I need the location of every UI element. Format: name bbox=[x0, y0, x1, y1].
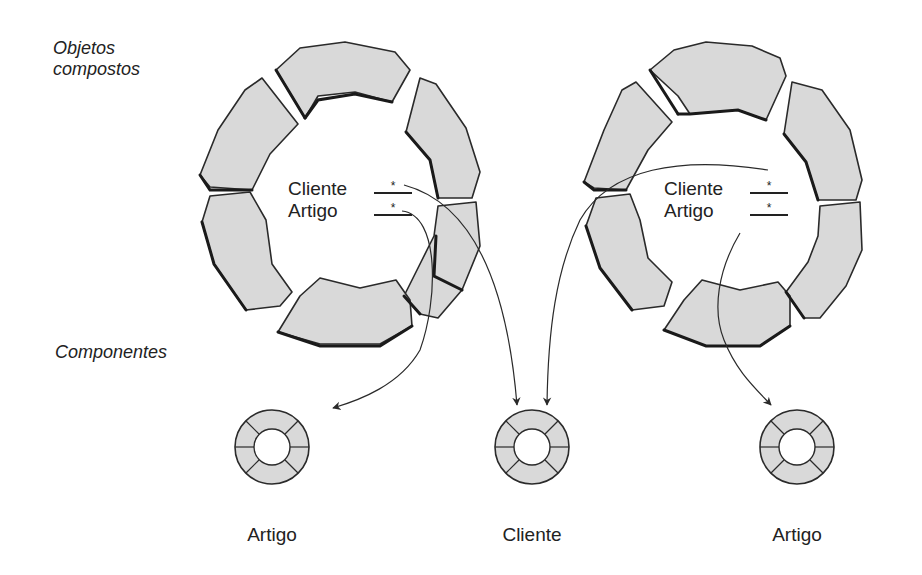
attribute-row: Artigo * bbox=[664, 200, 723, 222]
segment bbox=[200, 78, 298, 190]
component-ring-artigo-1 bbox=[235, 410, 309, 484]
segment bbox=[784, 82, 862, 200]
composite-objects-label-line2: compostos bbox=[53, 59, 140, 80]
segment bbox=[786, 202, 862, 318]
segment bbox=[278, 278, 412, 344]
segment bbox=[276, 42, 410, 118]
diagram-canvas bbox=[0, 0, 922, 575]
composite-objects-label-line1: Objetos bbox=[53, 38, 140, 59]
attribute-name: Cliente bbox=[288, 178, 347, 199]
segment bbox=[584, 82, 672, 190]
component-label-cliente: Cliente bbox=[472, 524, 592, 546]
segment bbox=[406, 78, 480, 198]
attribute-name: Artigo bbox=[664, 200, 714, 221]
segment bbox=[586, 194, 672, 310]
attribute-name: Cliente bbox=[664, 178, 723, 199]
attribute-row: Cliente * bbox=[288, 178, 347, 200]
attribute-row: Cliente * bbox=[664, 178, 723, 200]
multiplicity: * bbox=[750, 180, 788, 194]
multiplicity: * bbox=[374, 202, 412, 216]
composite-right-attributes: Cliente * Artigo * bbox=[664, 178, 723, 222]
segment bbox=[404, 202, 480, 318]
multiplicity: * bbox=[750, 202, 788, 216]
components-label: Componentes bbox=[55, 342, 167, 363]
attribute-name: Artigo bbox=[288, 200, 338, 221]
segment bbox=[650, 42, 786, 120]
multiplicity: * bbox=[374, 180, 412, 194]
attribute-row: Artigo * bbox=[288, 200, 347, 222]
component-ring-cliente bbox=[495, 410, 569, 484]
segment bbox=[202, 192, 292, 310]
composite-objects-label: Objetos compostos bbox=[53, 38, 140, 80]
component-label-artigo-1: Artigo bbox=[212, 524, 332, 546]
component-label-artigo-2: Artigo bbox=[737, 524, 857, 546]
component-ring-artigo-2 bbox=[760, 410, 834, 484]
composite-left-attributes: Cliente * Artigo * bbox=[288, 178, 347, 222]
